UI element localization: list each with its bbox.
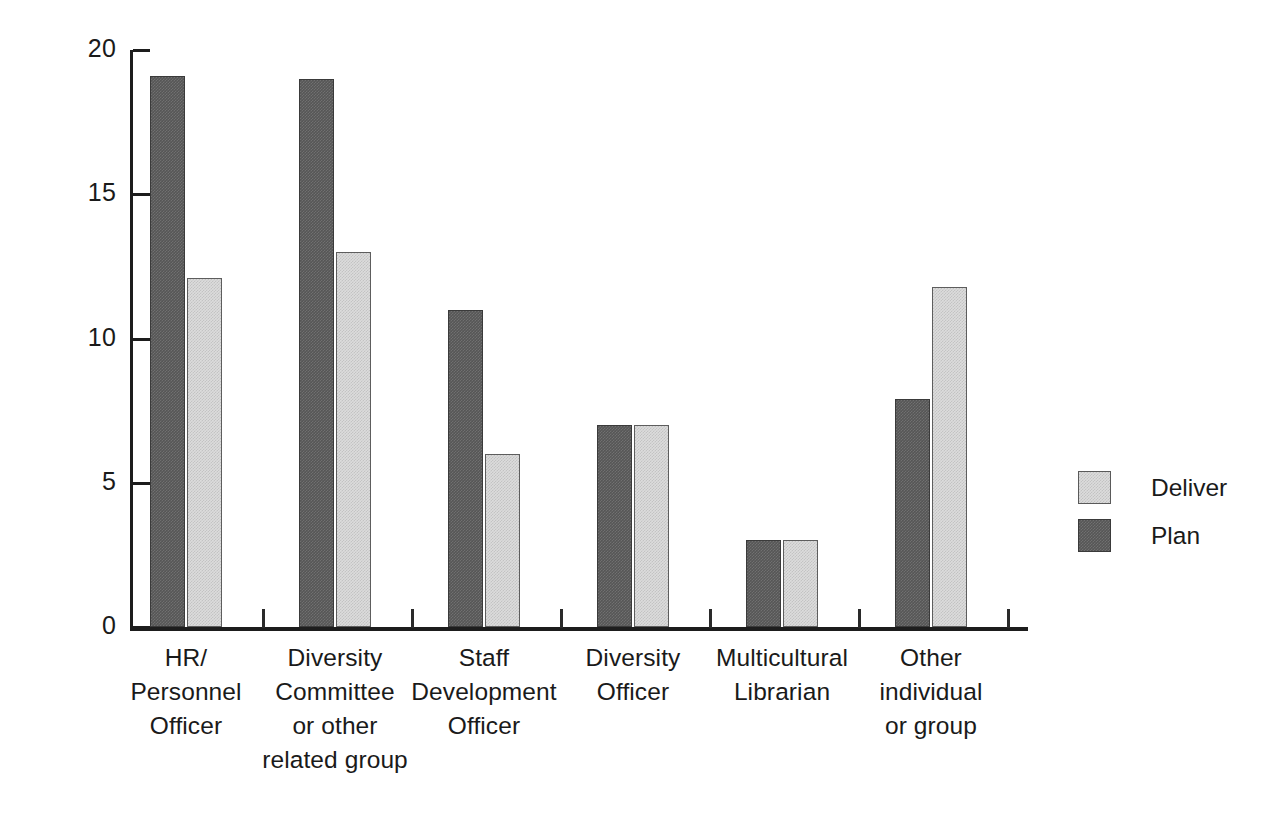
x-axis-label-line: or other	[261, 709, 409, 743]
legend-swatch-deliver-icon	[1078, 471, 1111, 504]
bar-plan-0	[150, 76, 185, 627]
x-axis-tick	[709, 609, 712, 628]
bar-deliver-4	[783, 540, 818, 627]
x-axis-label-line: Multicultural	[708, 641, 856, 675]
x-axis-tick	[858, 609, 861, 628]
x-axis-label-line: Other	[857, 641, 1005, 675]
x-axis-label-line: Officer	[410, 709, 558, 743]
bar-deliver-0	[187, 278, 222, 627]
x-axis-label-0: HR/PersonnelOfficer	[112, 641, 260, 743]
x-axis-label-line: Diversity	[559, 641, 707, 675]
legend-label-deliver: Deliver	[1151, 475, 1227, 500]
x-axis-label-line: Diversity	[261, 641, 409, 675]
x-axis-label-line: related group	[261, 743, 409, 777]
chart-legend: Deliver Plan	[1078, 463, 1268, 559]
bar-plan-2	[448, 310, 483, 627]
x-axis-label-line: or group	[857, 709, 1005, 743]
bar-plan-3	[597, 425, 632, 627]
legend-item-plan[interactable]: Plan	[1078, 511, 1268, 559]
bar-deliver-2	[485, 454, 520, 627]
x-axis-label-line: Officer	[559, 675, 707, 709]
legend-item-deliver[interactable]: Deliver	[1078, 463, 1268, 511]
x-axis-label-line: Librarian	[708, 675, 856, 709]
bar-plan-1	[299, 79, 334, 627]
bar-deliver-1	[336, 252, 371, 627]
x-axis-label-line: Officer	[112, 709, 260, 743]
x-axis-label-2: StaffDevelopmentOfficer	[410, 641, 558, 743]
bar-deliver-5	[932, 287, 967, 627]
x-axis-label-4: MulticulturalLibrarian	[708, 641, 856, 709]
x-axis-label-3: DiversityOfficer	[559, 641, 707, 709]
x-axis-tick	[560, 609, 563, 628]
x-axis-tick	[411, 609, 414, 628]
x-axis-label-line: Development	[410, 675, 558, 709]
x-axis-label-5: Otherindividualor group	[857, 641, 1005, 743]
x-axis-label-line: Staff	[410, 641, 558, 675]
bar-plan-5	[895, 399, 930, 627]
x-axis-tick	[262, 609, 265, 628]
bar-deliver-3	[634, 425, 669, 627]
x-axis-tick	[1007, 609, 1010, 628]
x-axis-label-line: Committee	[261, 675, 409, 709]
legend-label-plan: Plan	[1151, 523, 1200, 548]
bar-chart: 05101520 HR/PersonnelOfficerDiversityCom…	[0, 0, 1274, 813]
bar-plan-4	[746, 540, 781, 627]
x-axis-label-line: Personnel	[112, 675, 260, 709]
x-axis-label-line: HR/	[112, 641, 260, 675]
x-axis-label-1: DiversityCommitteeor otherrelated group	[261, 641, 409, 777]
legend-swatch-plan-icon	[1078, 519, 1111, 552]
x-axis-label-line: individual	[857, 675, 1005, 709]
